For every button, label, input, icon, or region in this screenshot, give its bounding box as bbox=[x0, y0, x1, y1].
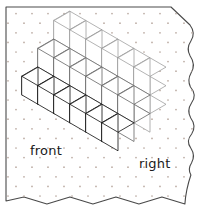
grid-dot bbox=[119, 195, 121, 197]
grid-dot bbox=[159, 186, 161, 188]
grid-dot bbox=[151, 22, 153, 24]
grid-dot bbox=[159, 147, 161, 149]
grid-dot bbox=[31, 32, 33, 34]
grid-dot bbox=[7, 3, 9, 5]
grid-dot bbox=[135, 42, 137, 44]
grid-dot bbox=[175, 70, 177, 72]
grid-dot bbox=[23, 157, 25, 159]
grid-dot bbox=[47, 32, 49, 34]
grid-dot bbox=[71, 3, 73, 5]
grid-dot bbox=[23, 42, 25, 44]
grid-dot bbox=[23, 22, 25, 24]
grid-dot bbox=[191, 128, 193, 130]
grid-dot bbox=[175, 128, 177, 130]
grid-dot bbox=[79, 13, 81, 15]
grid-dot bbox=[7, 118, 9, 120]
grid-dot bbox=[15, 13, 17, 15]
grid-dot bbox=[31, 186, 33, 188]
grid-dot bbox=[159, 109, 161, 111]
grid-dot bbox=[143, 186, 145, 188]
grid-dot bbox=[63, 166, 65, 168]
grid-dot bbox=[183, 61, 185, 63]
grid-dot bbox=[95, 166, 97, 168]
grid-dot bbox=[63, 205, 65, 207]
grid-dot bbox=[31, 205, 33, 207]
grid-dot bbox=[95, 13, 97, 15]
grid-dot bbox=[111, 166, 113, 168]
grid-dot bbox=[119, 176, 121, 178]
grid-dot bbox=[103, 176, 105, 178]
grid-dot bbox=[119, 157, 121, 159]
grid-dot bbox=[79, 147, 81, 149]
grid-dot bbox=[191, 186, 193, 188]
grid-dot bbox=[95, 205, 97, 207]
grid-dot bbox=[47, 128, 49, 130]
grid-dot bbox=[183, 118, 185, 120]
grid-dot bbox=[39, 118, 41, 120]
grid-dot bbox=[15, 147, 17, 149]
grid-dot bbox=[183, 42, 185, 44]
grid-dot bbox=[159, 128, 161, 130]
grid-dot bbox=[31, 166, 33, 168]
grid-dot bbox=[175, 32, 177, 34]
grid-dot bbox=[183, 176, 185, 178]
isometric-dot-paper bbox=[0, 0, 199, 211]
grid-dot bbox=[71, 195, 73, 197]
grid-dot bbox=[87, 157, 89, 159]
grid-dot bbox=[175, 109, 177, 111]
grid-dot bbox=[7, 22, 9, 24]
grid-dot bbox=[39, 3, 41, 5]
grid-dot bbox=[183, 99, 185, 101]
grid-dot bbox=[135, 195, 137, 197]
grid-dot bbox=[15, 32, 17, 34]
grid-dot bbox=[135, 3, 137, 5]
grid-dot bbox=[39, 22, 41, 24]
grid-dot bbox=[143, 147, 145, 149]
grid-dot bbox=[55, 195, 57, 197]
grid-dot bbox=[191, 32, 193, 34]
grid-dot bbox=[15, 128, 17, 130]
grid-dot bbox=[183, 157, 185, 159]
grid-dot bbox=[55, 176, 57, 178]
grid-dot bbox=[7, 61, 9, 63]
grid-dot bbox=[23, 138, 25, 140]
grid-dot bbox=[143, 51, 145, 53]
grid-dot bbox=[31, 13, 33, 15]
grid-dot bbox=[167, 42, 169, 44]
grid-dot bbox=[175, 186, 177, 188]
grid-dot bbox=[23, 118, 25, 120]
grid-dot bbox=[87, 176, 89, 178]
grid-dot bbox=[135, 176, 137, 178]
grid-dot bbox=[15, 51, 17, 53]
grid-dot bbox=[39, 176, 41, 178]
grid-dot bbox=[23, 195, 25, 197]
grid-dot bbox=[191, 13, 193, 15]
grid-dot bbox=[103, 22, 105, 24]
grid-dot bbox=[183, 22, 185, 24]
grid-dot bbox=[119, 138, 121, 140]
grid-dot bbox=[39, 195, 41, 197]
grid-dot bbox=[95, 186, 97, 188]
grid-dot bbox=[159, 32, 161, 34]
grid-dot bbox=[111, 13, 113, 15]
grid-dot bbox=[15, 186, 17, 188]
grid-dot bbox=[23, 61, 25, 63]
grid-dot bbox=[159, 205, 161, 207]
grid-dot bbox=[167, 22, 169, 24]
grid-dot bbox=[183, 3, 185, 5]
grid-dot bbox=[111, 186, 113, 188]
grid-dot bbox=[31, 128, 33, 130]
grid-dot bbox=[71, 176, 73, 178]
grid-dot bbox=[175, 13, 177, 15]
grid-dot bbox=[15, 109, 17, 111]
grid-dot bbox=[135, 138, 137, 140]
grid-dot bbox=[143, 32, 145, 34]
grid-dot bbox=[7, 42, 9, 44]
grid-dot bbox=[135, 22, 137, 24]
grid-dot bbox=[175, 166, 177, 168]
grid-dot bbox=[175, 51, 177, 53]
grid-dot bbox=[103, 3, 105, 5]
grid-dot bbox=[151, 118, 153, 120]
grid-dot bbox=[55, 3, 57, 5]
grid-dot bbox=[103, 195, 105, 197]
